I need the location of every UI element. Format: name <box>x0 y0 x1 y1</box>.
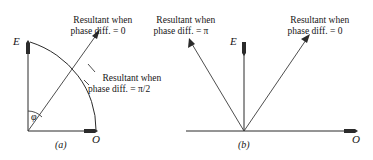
annotation-panel-b-phase-pi-line2: phase diff. = π <box>143 26 219 37</box>
panel-b-horizontal-axis-label: O <box>352 134 360 145</box>
annotation-panel-a-phase-0-line1: Resultant when <box>73 15 132 25</box>
panel-b-vertical-axis-arrowhead <box>242 42 246 56</box>
annotation-panel-a-phase-pi-over-2-line1: Resultant when <box>103 73 162 83</box>
annotation-panel-b-phase-pi-line1: Resultant when <box>156 15 215 25</box>
annotation-panel-a-phase-0: Resultant whenphase diff. = 0 <box>60 4 136 59</box>
panel-a-angle-label: φ <box>31 111 37 122</box>
figure-root: Resultant whenphase diff. = 0 Resultant … <box>0 0 373 160</box>
annotation-panel-b-phase-0-line2: phase diff. = 0 <box>277 26 353 37</box>
annotation-panel-b-phase-0-line1: Resultant when <box>290 15 349 25</box>
panel-b-caption: (b) <box>238 139 250 150</box>
annotation-panel-b-phase-pi: Resultant whenphase diff. = π <box>143 4 219 59</box>
panel-b-vertical-axis-label: E <box>230 36 237 47</box>
annotation-panel-a-phase-pi-over-2-line2: phase diff. = π/2 <box>88 84 173 95</box>
annotation-panel-a-phase-0-line2: phase diff. = 0 <box>60 26 136 37</box>
panel-a-caption: (a) <box>55 139 67 150</box>
panel-a-vertical-axis-label: E <box>13 36 20 47</box>
panel-a-horizontal-axis-label: O <box>92 134 100 145</box>
panel-a-vertical-axis-arrowhead <box>26 40 30 54</box>
annotation-panel-b-phase-0: Resultant whenphase diff. = 0 <box>277 4 353 59</box>
annotation-panel-a-phase-pi-over-2: Resultant whenphase diff. = π/2 <box>93 62 173 117</box>
